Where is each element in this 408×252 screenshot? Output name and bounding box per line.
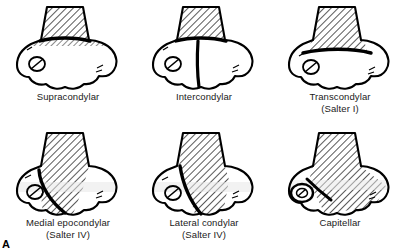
fracture-line-vertical xyxy=(197,41,199,87)
panel-transcondylar: Transcondylar (Salter I) xyxy=(272,0,408,126)
illustration-supracondylar xyxy=(13,4,123,90)
illustration-capitellar xyxy=(285,130,395,216)
panel-label: Supracondylar xyxy=(37,91,100,102)
figure-letter: A xyxy=(2,238,10,250)
caption-transcondylar: Transcondylar (Salter I) xyxy=(309,91,370,114)
panel-label: Capitellar xyxy=(319,217,360,228)
panel-medial-epocondylar: Medial epocondylar (Salter IV) xyxy=(0,126,136,252)
caption-supracondylar: Supracondylar xyxy=(37,91,100,103)
panel-lateral-condylar: Lateral condylar (Salter IV) xyxy=(136,126,272,252)
capitellar-fragment-icon xyxy=(291,184,313,202)
illustration-lateral-condylar xyxy=(149,130,259,216)
panel-grid: Supracondylar xyxy=(0,0,408,252)
panel-label: Lateral condylar xyxy=(169,217,238,228)
panel-label: Transcondylar xyxy=(309,91,370,102)
panel-sublabel: (Salter IV) xyxy=(26,229,110,241)
panel-capitellar: Capitellar xyxy=(272,126,408,252)
panel-sublabel: (Salter I) xyxy=(309,103,370,115)
panel-sublabel: (Salter IV) xyxy=(169,229,238,241)
panel-label: Intercondylar xyxy=(176,91,232,102)
caption-capitellar: Capitellar xyxy=(319,217,360,229)
caption-medial-epocondylar: Medial epocondylar (Salter IV) xyxy=(26,217,110,240)
panel-intercondylar: Intercondylar xyxy=(136,0,272,126)
illustration-medial-epocondylar xyxy=(13,130,123,216)
caption-intercondylar: Intercondylar xyxy=(176,91,232,103)
figure-distal-humerus-fractures: Supracondylar xyxy=(0,0,408,252)
caption-lateral-condylar: Lateral condylar (Salter IV) xyxy=(169,217,238,240)
illustration-intercondylar xyxy=(149,4,259,90)
illustration-transcondylar xyxy=(285,4,395,90)
panel-supracondylar: Supracondylar xyxy=(0,0,136,126)
panel-label: Medial epocondylar xyxy=(26,217,110,228)
